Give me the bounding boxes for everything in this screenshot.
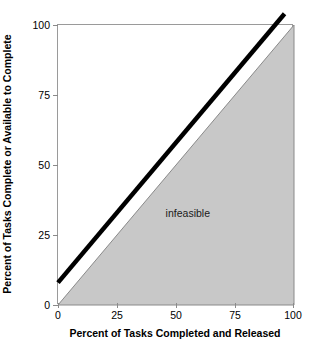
x-tick-label-75: 75 [229,309,241,321]
x-axis-title: Percent of Tasks Completed and Released [57,327,293,339]
y-tick-label-25: 25 [38,229,50,241]
x-tick-100 [293,303,294,308]
y-tick-25 [53,235,58,236]
y-tick-label-50: 50 [38,159,50,171]
y-tick-75 [53,95,58,96]
x-tick-label-100: 100 [284,309,302,321]
y-tick-label-75: 75 [38,89,50,101]
x-tick-25 [117,303,118,308]
x-tick-0 [58,303,59,308]
y-tick-label-100: 100 [32,19,50,31]
x-tick-label-0: 0 [55,309,61,321]
x-tick-label-50: 50 [170,309,182,321]
y-tick-50 [53,165,58,166]
chart-figure: 0 25 50 75 100 0 25 50 75 100 infeasible… [0,0,319,358]
infeasible-region-label: infeasible [166,207,210,219]
x-tick-50 [176,303,177,308]
y-axis-title: Percent of Tasks Complete or Available t… [0,24,14,304]
plot-area: 0 25 50 75 100 0 25 50 75 100 infeasible [57,24,293,304]
plot-graphics [44,11,308,319]
x-tick-label-25: 25 [111,309,123,321]
x-tick-75 [235,303,236,308]
infeasible-region-shape [58,25,294,305]
y-tick-100 [53,25,58,26]
y-tick-label-0: 0 [44,299,50,311]
